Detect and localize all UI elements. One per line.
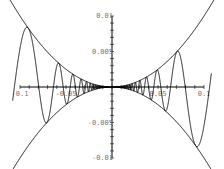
y-tick-label: -0.005 — [88, 119, 113, 127]
y-tick-label: 0.01 — [96, 12, 113, 20]
y-tick-label: 0.005 — [92, 48, 113, 56]
function-plot: -0.1-0.050.050.1 0.010.005-0.005-0.01 — [0, 0, 224, 169]
x-tick-label: -0.05 — [55, 90, 76, 98]
y-tick-label: -0.01 — [92, 154, 113, 162]
